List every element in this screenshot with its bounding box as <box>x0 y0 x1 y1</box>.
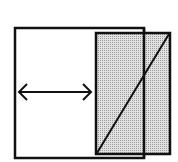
diagram-svg <box>0 0 178 162</box>
diagram-canvas <box>0 0 178 162</box>
